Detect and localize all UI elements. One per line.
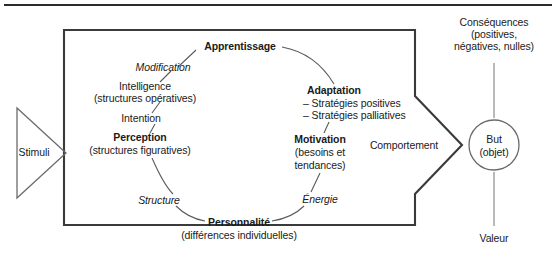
consequences-label-line3: négatives, nulles) [454,40,534,52]
intelligence-sublabel: (structures opératives) [94,92,196,104]
modification-label: Modification [136,61,191,73]
comportement-label: Comportement [370,139,438,151]
psychology-behaviour-diagram: Stimuli Apprentissage Modification Intel… [0,0,556,273]
motivation-sublabel-line1: (besoins et [295,146,345,158]
intelligence-label: Intelligence [119,80,171,92]
but-label-line1: But [486,133,501,145]
apprentissage-to-adaptation-curve [282,47,334,84]
consequences-label-line2: (positives, [471,28,517,40]
stimuli-label: Stimuli [19,146,50,158]
but-label-line2: (objet) [479,146,508,158]
energie-to-personnalite-curve [272,206,304,221]
valeur-label: Valeur [480,232,509,244]
perception-to-structure-curve [152,158,173,194]
structure-label: Structure [138,194,180,206]
motivation-sublabel-line2: tendances) [295,159,346,171]
perception-sublabel: (structures figuratives) [89,144,190,156]
apprentissage-label: Apprentissage [204,40,276,52]
personnalite-sublabel: (différences individuelles) [181,229,297,241]
main-box-outline [64,30,462,225]
motivation-to-energie-line [311,173,320,192]
adaptation-item-0: – Stratégies positives [303,97,401,109]
adaptation-item-1: – Stratégies palliatives [303,109,406,121]
adaptation-to-motivation-line [324,122,329,133]
motivation-label: Motivation [294,133,346,145]
energie-label: Énergie [302,193,338,205]
consequences-label-line1: Conséquences [460,16,529,28]
personnalite-label: Personnalité [208,216,270,228]
intention-label: Intention [121,112,160,124]
structure-to-personnalite-curve [176,206,205,221]
perception-label: Perception [113,131,166,143]
adaptation-label: Adaptation [307,84,361,96]
